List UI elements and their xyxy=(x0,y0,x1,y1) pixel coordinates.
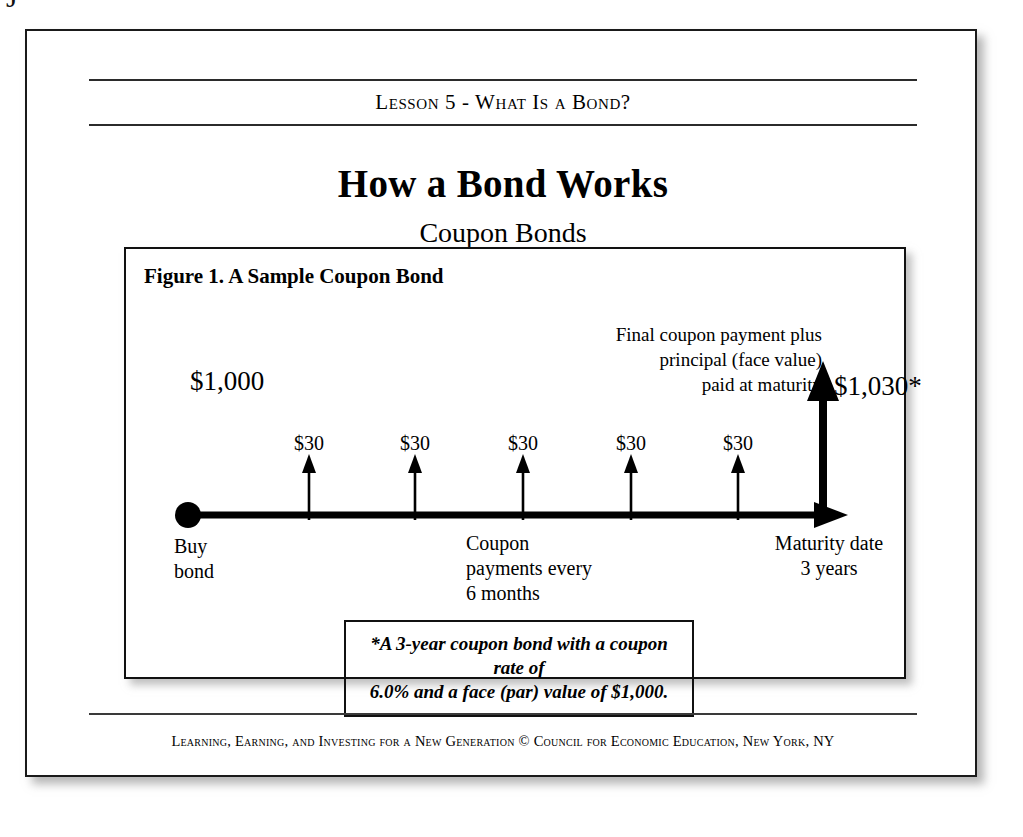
footnote-line-1: *A 3-year coupon bond with a coupon rate… xyxy=(354,632,684,680)
coupon-label: $30 xyxy=(294,432,324,455)
buy-bond-line-1: Buy xyxy=(174,534,214,559)
page-subtitle: Coupon Bonds xyxy=(27,217,979,249)
coupon-freq-line-1: Coupon xyxy=(466,531,592,556)
buy-bond-marker xyxy=(175,502,201,528)
page-sheet: Lesson 5 - What Is a Bond? How a Bond Wo… xyxy=(25,29,977,777)
page-title: How a Bond Works xyxy=(27,161,979,206)
coupon-freq-line-2: payments every xyxy=(466,556,592,581)
footer-rule xyxy=(89,713,917,715)
coupon-arrow xyxy=(300,454,318,524)
lesson-title: Lesson 5 - What Is a Bond? xyxy=(89,81,917,124)
maturity-date-label: Maturity date 3 years xyxy=(749,531,909,581)
figure-container: Figure 1. A Sample Coupon Bond Final cou… xyxy=(124,247,906,679)
coupon-frequency-label: Coupon payments every 6 months xyxy=(466,531,592,606)
page-edge-artifact: J xyxy=(6,0,32,10)
buy-bond-line-2: bond xyxy=(174,559,214,584)
maturity-label-line-2: 3 years xyxy=(749,556,909,581)
buy-bond-label: Buy bond xyxy=(174,534,214,584)
coupon-label: $30 xyxy=(508,432,538,455)
footer-attribution: Learning, Earning, and Investing for a N… xyxy=(89,733,917,750)
coupon-label: $30 xyxy=(723,432,753,455)
coupon-freq-line-3: 6 months xyxy=(466,581,592,606)
footnote-box: *A 3-year coupon bond with a coupon rate… xyxy=(344,620,694,717)
coupon-arrow xyxy=(622,454,640,524)
footnote-line-2: 6.0% and a face (par) value of $1,000. xyxy=(354,680,684,704)
coupon-arrow xyxy=(514,454,532,524)
coupon-label: $30 xyxy=(616,432,646,455)
coupon-arrow xyxy=(729,454,747,524)
maturity-arrow-head xyxy=(807,361,839,401)
coupon-label: $30 xyxy=(400,432,430,455)
lesson-header: Lesson 5 - What Is a Bond? xyxy=(89,79,917,126)
maturity-label-line-1: Maturity date xyxy=(749,531,909,556)
coupon-arrow xyxy=(406,454,424,524)
header-rule-bottom xyxy=(89,124,917,126)
